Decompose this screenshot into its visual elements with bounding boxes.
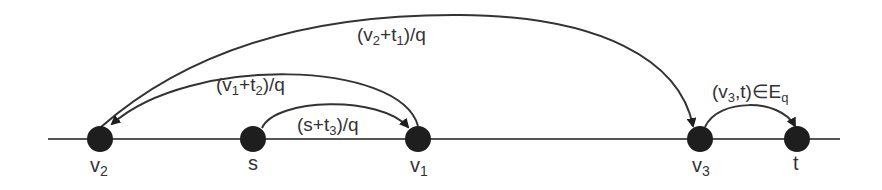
node-label-t: t — [793, 152, 799, 174]
node-label-v2: v2 — [90, 154, 108, 179]
node-v1 — [405, 126, 431, 152]
edge-label-v2-v3: (v2+t1)/q — [357, 24, 426, 48]
node-s — [240, 126, 266, 152]
edge-label-v3-t: (v3,t)∈Eq — [712, 81, 788, 105]
edge-v3-t — [705, 105, 795, 127]
node-label-v3: v3 — [692, 154, 710, 179]
path-diagram: (v2+t1)/q (v1+t2)/q (s+t3)/q (v3,t)∈Eq v… — [0, 0, 882, 190]
node-t — [784, 126, 810, 152]
node-v2 — [87, 126, 113, 152]
node-label-s: s — [248, 152, 258, 174]
node-label-v1: v1 — [410, 154, 428, 179]
edge-label-v1-v2: (v1+t2)/q — [216, 74, 285, 98]
edge-v2-v3 — [101, 15, 693, 127]
node-v3 — [687, 126, 713, 152]
edge-label-s-v1: (s+t3)/q — [297, 114, 359, 138]
